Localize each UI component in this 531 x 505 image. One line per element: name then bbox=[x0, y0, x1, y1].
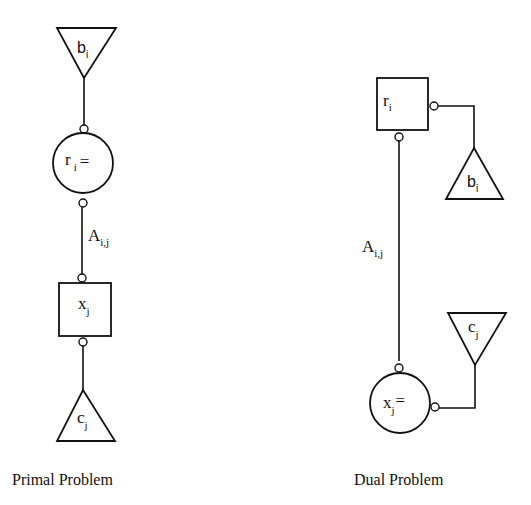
dual-caption: Dual Problem bbox=[354, 471, 444, 488]
primal-ri-constraint-node: ri= bbox=[53, 133, 113, 193]
dual-xj-constraint-node: xj= bbox=[370, 373, 430, 433]
primal-problem-graph: bi ri= Ai,j xj cj Primal Problem bbox=[12, 28, 116, 488]
dual-port-icon bbox=[430, 102, 438, 110]
dual-edge-ri-bi bbox=[438, 106, 474, 148]
primal-bi-triangle: bi bbox=[57, 28, 116, 78]
dual-port-icon bbox=[431, 403, 439, 411]
primal-bi-label: b bbox=[77, 39, 86, 56]
dual-ri-variable-node: ri bbox=[377, 78, 428, 130]
primal-xj-variable-node: xj bbox=[59, 283, 111, 336]
dual-edge-xj-cj bbox=[439, 365, 475, 408]
primal-aij-label: Ai,j bbox=[88, 226, 109, 248]
primal-dual-diagram: bi ri= Ai,j xj cj Primal Problem bbox=[0, 0, 531, 505]
primal-port-icon bbox=[80, 125, 88, 133]
dual-aij-label: Ai,j bbox=[362, 237, 383, 259]
dual-port-icon bbox=[395, 364, 403, 372]
primal-port-icon bbox=[79, 338, 87, 346]
dual-cj-triangle: cj bbox=[448, 313, 506, 365]
dual-port-icon bbox=[395, 133, 403, 141]
dual-problem-graph: ri bi Ai,j xj= cj Dual Problem bbox=[354, 78, 506, 488]
dual-bi-triangle: bi bbox=[446, 148, 503, 199]
primal-port-icon bbox=[79, 199, 87, 207]
primal-caption: Primal Problem bbox=[12, 471, 113, 488]
primal-cj-triangle: cj bbox=[57, 390, 115, 441]
primal-port-icon bbox=[78, 274, 86, 282]
